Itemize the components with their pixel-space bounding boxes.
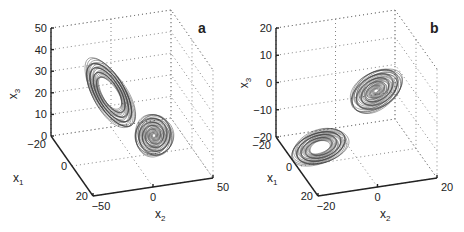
- panel-b-x2-tick-label: 20: [441, 181, 453, 193]
- panel-a-x1-axis: [51, 136, 93, 196]
- panel-a-x1-tick-label: 0: [61, 160, 67, 172]
- panel-a-grid-x3-0: [51, 118, 213, 178]
- panel-a-x3-tick-label: 20: [35, 87, 47, 99]
- panel-b: b −20−1001020−20020−20020 x3 x1 x2: [237, 10, 453, 223]
- panel-a-x1-tick-label: 20: [76, 190, 88, 202]
- panel-a-trajectory-loop: [152, 134, 155, 138]
- panel-b-trajectory: [292, 69, 403, 166]
- panel-b-tick-labels: −20−1001020−20020−20020: [252, 22, 453, 212]
- panel-a-x2-axis-label: x2: [155, 207, 166, 223]
- panel-a: a 01020304050−20020−50050 x3 x1 x2: [6, 10, 229, 223]
- panel-a-x1-axis-label: x1: [13, 171, 24, 187]
- panel-b-grid-x3-20: [276, 10, 437, 69]
- panel-a-trajectory: [85, 58, 174, 157]
- panel-a-x3-tick-label: 30: [35, 65, 47, 77]
- panel-a-x3-tick-label: 10: [35, 108, 47, 120]
- panel-b-x3-tick-label: 20: [260, 22, 272, 34]
- panel-a-grid-x1-0: [72, 40, 192, 166]
- panel-b-x3-tick-label: 0: [266, 77, 272, 89]
- panel-label-b: b: [430, 20, 439, 36]
- panel-b-x3-tick-label: −10: [253, 104, 272, 116]
- panel-a-x3-axis-label: x3: [6, 88, 22, 99]
- panel-b-x2-tick-label: 0: [374, 191, 380, 203]
- panel-a-grid-x3-50: [51, 10, 213, 70]
- panel-a-grid: [51, 10, 213, 196]
- panel-a-x2-tick-label: 50: [217, 181, 229, 193]
- panel-b-x1-tick-label: 0: [286, 161, 292, 173]
- panel-a-x3-tick-label: 50: [35, 22, 47, 34]
- panel-b-x1-axis-label: x1: [267, 171, 278, 187]
- panel-b-x1-tick-label: 20: [301, 190, 313, 202]
- panel-b-x2-axis-label: x2: [380, 207, 391, 223]
- panel-label-a: a: [198, 20, 206, 36]
- panel-a-x3-tick-label: 40: [35, 44, 47, 56]
- panel-a-box-top: [51, 10, 213, 70]
- panel-b-box-top: [276, 10, 437, 69]
- figure: a 01020304050−20020−50050 x3 x1 x2 b −20…: [0, 0, 464, 232]
- panel-b-x3-axis-label: x3: [237, 77, 253, 88]
- panel-b-x3-tick-label: 10: [260, 49, 272, 61]
- panel-b-x1-tick-label: −20: [252, 139, 271, 151]
- panel-a-grid-x2--50: [51, 28, 93, 196]
- panel-a-grid-x3-40: [51, 32, 213, 92]
- panel-b-grid-x2--20: [276, 28, 318, 196]
- panel-a-grid-x2-0: [111, 19, 153, 187]
- panel-b-grid-x3--20: [276, 119, 437, 178]
- panel-a-x2-tick-label: 0: [150, 191, 156, 203]
- panel-a-x2-tick-label: −50: [92, 200, 111, 212]
- panel-a-grid-x2-50: [171, 10, 213, 178]
- panel-a-x1-tick-label: −20: [27, 138, 46, 150]
- panel-b-x2-tick-label: −20: [317, 200, 336, 212]
- panel-b-axes: [276, 28, 437, 196]
